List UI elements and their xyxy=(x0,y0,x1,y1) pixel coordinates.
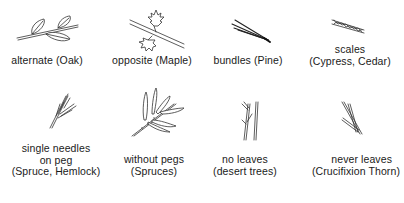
label-line: no leaves xyxy=(204,154,286,166)
label-scales: scales (Cypress, Cedar) xyxy=(300,44,400,67)
needle-bundle-icon xyxy=(230,18,274,44)
label-single-needles: single needles on peg (Spruce, Hemlock) xyxy=(4,143,108,178)
label-bundles: bundles (Pine) xyxy=(208,55,288,67)
label-line: bundles (Pine) xyxy=(208,55,288,67)
cropped-shape-icon xyxy=(122,198,138,203)
label-no-leaves: no leaves (desert trees) xyxy=(204,154,286,177)
label-line: never leaves xyxy=(288,154,400,166)
label-line: (Spruce, Hemlock) xyxy=(4,166,108,178)
scale-leaves-icon xyxy=(330,16,366,34)
label-alternate: alternate (Oak) xyxy=(8,55,86,67)
label-line: alternate (Oak) xyxy=(8,55,86,67)
needles-on-peg-icon xyxy=(46,90,80,130)
opposite-leaves-icon xyxy=(126,8,188,52)
alternate-leaves-icon xyxy=(14,12,84,44)
label-opposite: opposite (Maple) xyxy=(104,55,200,67)
label-line: single needles xyxy=(4,143,108,155)
label-never-leaves: never leaves (Crucifixion Thorn) xyxy=(288,154,400,177)
label-line: (Spruces) xyxy=(112,166,196,178)
leafless-twigs-icon xyxy=(238,100,262,140)
label-line: scales xyxy=(300,44,400,56)
thorn-twigs-icon xyxy=(340,98,364,138)
label-line: opposite (Maple) xyxy=(104,55,200,67)
label-line: (Crucifixion Thorn) xyxy=(288,166,400,178)
label-line: without pegs xyxy=(112,154,196,166)
needles-without-pegs-icon xyxy=(130,86,190,138)
label-line: (desert trees) xyxy=(204,166,286,178)
label-line: (Cypress, Cedar) xyxy=(300,56,400,68)
label-without-pegs: without pegs (Spruces) xyxy=(112,154,196,177)
